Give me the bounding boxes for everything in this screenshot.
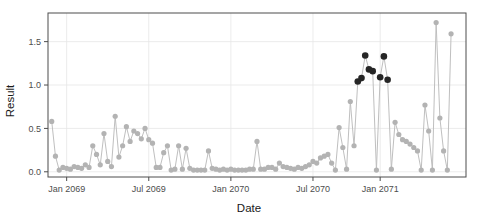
data-point [142, 126, 147, 131]
data-point [351, 143, 356, 148]
data-point-highlighted [381, 53, 388, 60]
data-point [120, 143, 125, 148]
data-point [389, 167, 394, 172]
data-point [116, 154, 121, 159]
data-point [340, 145, 345, 150]
data-point [53, 154, 58, 159]
data-point [254, 139, 259, 144]
x-axis-title: Date [237, 202, 261, 214]
data-point [430, 167, 435, 172]
data-point [157, 165, 162, 170]
data-point [333, 167, 338, 172]
y-tick-label: 0.5 [28, 124, 41, 134]
data-point [101, 131, 106, 136]
data-point [437, 115, 442, 120]
y-axis-title: Result [4, 84, 16, 117]
x-tick-label: Jan 2070 [212, 184, 249, 194]
data-point-highlighted [377, 74, 384, 81]
data-point [124, 124, 129, 129]
x-tick-label: Jul 2070 [296, 184, 330, 194]
data-point [150, 141, 155, 146]
data-point [161, 150, 166, 155]
data-point [202, 167, 207, 172]
data-point [251, 167, 256, 172]
data-point [448, 31, 453, 36]
y-tick-label: 1.5 [28, 37, 41, 47]
data-point [113, 114, 118, 119]
data-point [172, 167, 177, 172]
data-point [445, 167, 450, 172]
data-point [337, 125, 342, 130]
data-point [415, 148, 420, 153]
result-vs-date-line-chart: 0.00.51.01.5Jan 2069Jul 2069Jan 2070Jul … [0, 0, 486, 218]
data-point [49, 119, 54, 124]
data-point [86, 165, 91, 170]
data-point [374, 167, 379, 172]
data-point [426, 128, 431, 133]
y-tick-label: 0.0 [28, 167, 41, 177]
data-point [135, 131, 140, 136]
data-point [98, 162, 103, 167]
data-point [105, 159, 110, 164]
data-point [180, 167, 185, 172]
y-tick-label: 1.0 [28, 80, 41, 90]
data-point [109, 164, 114, 169]
data-point [176, 143, 181, 148]
data-point [165, 143, 170, 148]
data-point [273, 167, 278, 172]
data-point [139, 136, 144, 141]
x-tick-label: Jul 2069 [132, 184, 166, 194]
data-point-highlighted [384, 77, 391, 84]
data-point [128, 139, 133, 144]
data-point-highlighted [362, 52, 369, 59]
data-point [392, 120, 397, 125]
data-point [183, 146, 188, 151]
data-point-highlighted [358, 75, 365, 82]
data-point [314, 161, 319, 166]
data-point [434, 20, 439, 25]
x-tick-label: Jan 2069 [48, 184, 85, 194]
data-point [348, 99, 353, 104]
data-point [344, 167, 349, 172]
data-point [422, 102, 427, 107]
data-point [419, 167, 424, 172]
data-point-highlighted [369, 68, 376, 75]
data-point [206, 148, 211, 153]
data-point [329, 161, 334, 166]
data-point [441, 148, 446, 153]
data-point [94, 152, 99, 157]
data-point [396, 132, 401, 137]
data-point [325, 152, 330, 157]
x-tick-label: Jan 2071 [362, 184, 399, 194]
chart-container: 0.00.51.01.5Jan 2069Jul 2069Jan 2070Jul … [0, 0, 486, 218]
data-point [90, 143, 95, 148]
